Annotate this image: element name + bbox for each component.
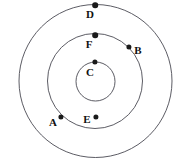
concentric-circles-group [0,0,180,164]
point-label-f: F [86,39,93,50]
point-label-b: B [134,45,141,56]
point-label-e: E [83,114,90,125]
diagram-canvas: A B C D E F [0,0,180,164]
circle-outer [19,5,172,158]
circle-inner [76,62,115,101]
point-label-d: D [86,9,94,20]
point-dot-f [92,32,98,38]
point-label-c: C [86,67,94,78]
point-label-a: A [49,117,57,128]
